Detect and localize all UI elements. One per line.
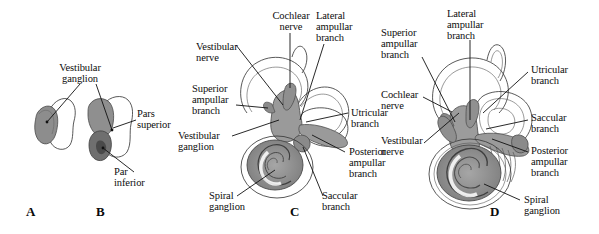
label-par-inferior: Par inferior	[114, 166, 145, 188]
label-vestibular-ganglion-a: Vestibular ganglion	[44, 62, 116, 84]
label-vestibular-nerve-d: Vestibular nerve	[381, 135, 423, 157]
leader-cochlear-nerve-d	[423, 97, 452, 112]
saccular-branch-shape-d	[512, 135, 529, 153]
posterior-canal-c	[292, 46, 307, 73]
panel-letter-d: D	[490, 204, 499, 220]
leader-pars-superior	[113, 120, 136, 128]
panel-d-artwork	[422, 40, 532, 209]
label-lateral-ampullar-branch-d: Lateral ampullar branch	[447, 8, 484, 41]
utricle-inner-d	[488, 108, 515, 134]
posterior-canal-d	[487, 45, 506, 81]
label-spiral-ganglion-d: Spiral ganglion	[524, 194, 560, 216]
label-utricular-branch-d: Utricular branch	[531, 64, 568, 86]
leader-saccular-branch-c	[303, 147, 323, 196]
panel-letter-a: A	[26, 204, 35, 220]
leader-vestibular-nerve-c	[236, 45, 283, 105]
label-saccular-branch-c: Saccular branch	[322, 190, 357, 212]
panel-letter-c: C	[290, 204, 299, 220]
label-posterior-ampullar-branch-d: Posterior ampullar branch	[531, 145, 568, 178]
label-superior-ampullar-branch-c: Superior ampullar branch	[192, 83, 229, 116]
label-cochlear-nerve-c: Cochlear nerve	[262, 10, 320, 32]
anatomy-figure: Vestibular ganglion A Pars superior Par …	[0, 0, 599, 234]
label-lateral-ampullar-branch-c: Lateral ampullar branch	[316, 10, 353, 43]
label-vestibular-ganglion-c: Vestibular ganglion	[178, 130, 220, 152]
panel-letter-b: B	[96, 204, 105, 220]
leader-superior-ampullar-branch-d	[422, 57, 455, 122]
leader-saccular-branch-d	[486, 120, 528, 129]
label-spiral-ganglion-c: Spiral ganglion	[209, 190, 245, 212]
panel-a-artwork	[35, 84, 80, 149]
label-pars-superior: Pars superior	[137, 108, 171, 130]
panel-b-artwork	[88, 84, 136, 172]
label-cochlear-nerve-d: Cochlear nerve	[381, 89, 418, 111]
label-vestibular-nerve-c: Vestibular nerve	[196, 41, 238, 63]
figure-artwork	[0, 0, 599, 234]
posterior-canal-inner-d	[491, 51, 502, 78]
label-superior-ampullar-branch-d: Superior ampullar branch	[381, 27, 418, 60]
panel-c-artwork	[232, 33, 349, 198]
label-saccular-branch-d: Saccular branch	[531, 112, 566, 134]
vestibular-ganglion-shape-a	[35, 106, 58, 144]
